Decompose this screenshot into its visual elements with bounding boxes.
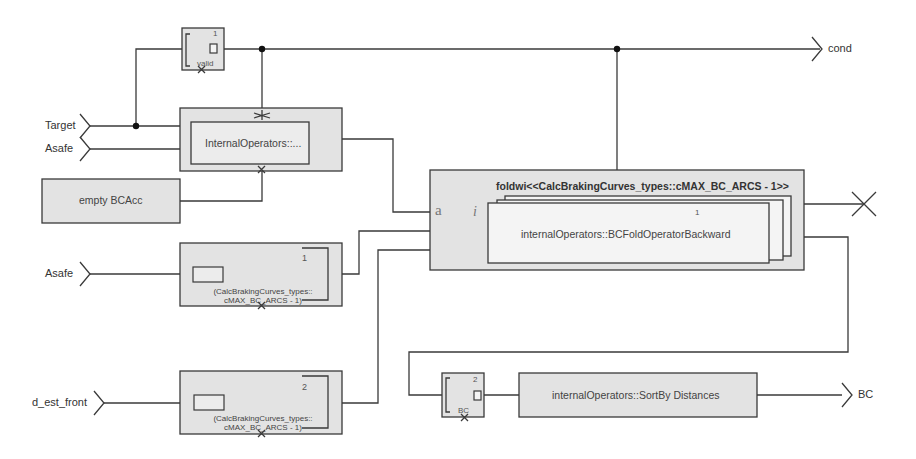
input-chevron-d-est-front[interactable] [94,391,104,415]
input-port-icon [193,267,223,282]
valid-index: 1 [213,29,217,38]
input-label-target: Target [45,119,76,131]
output-port-icon [210,44,217,53]
wire-slice2-to-fold[interactable] [342,250,430,403]
wire-emptybcacc[interactable] [180,171,262,201]
internal-operators-label: InternalOperators::... [205,137,301,149]
sort-by-distances-label: internalOperators::SortBy Distances [552,389,720,401]
fold-operator-label: internalOperators::BCFoldOperatorBackwar… [521,228,731,240]
empty-bcacc-label: empty BCAcc [79,194,143,206]
fold-title: foldwi<<CalcBrakingCurves_types::cMAX_BC… [496,180,789,192]
fold-iter-port-label: i [473,204,477,220]
junction-dot [133,123,139,129]
junction-dot [614,46,620,52]
bc-proj-label: BC [458,406,469,415]
slice1-index: 1 [302,253,307,263]
output-chevron-bc[interactable] [842,383,852,407]
wire-target-to-valid[interactable] [136,49,182,126]
fold-acc-port-label: a [435,202,442,219]
valid-label: valid [197,59,213,68]
fold-index: 1 [695,208,699,217]
slice1-line2: cMAX_BC_ARCS - 1) [204,296,322,306]
input-port-icon [194,395,224,410]
slice2-index: 2 [302,382,307,392]
output-label-bc: BC [858,388,873,400]
input-label-asafe: Asafe [45,142,73,154]
bc-proj-index: 2 [473,375,477,384]
junction-dot [259,46,265,52]
diagram-canvas [0,0,916,459]
input-label-d-est-front: d_est_front [32,396,87,408]
output-port-icon [474,391,481,400]
input-chevron-asafe[interactable] [80,137,90,161]
slice2-line2: cMAX_BC_ARCS - 1) [204,423,322,433]
input-label-asafe: Asafe [45,267,73,279]
wire-slice1-to-fold[interactable] [342,231,430,274]
input-chevron-asafe[interactable] [80,262,90,286]
output-label-cond: cond [828,42,852,54]
input-chevron-target[interactable] [80,114,90,138]
wire-internal-to-fold[interactable] [342,139,430,212]
